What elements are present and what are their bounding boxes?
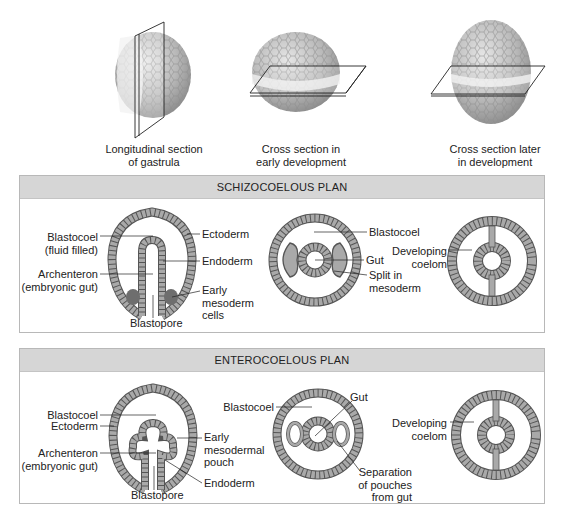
- label-developing-coelom: Developing coelom: [385, 417, 447, 442]
- label-blastocoel-middle: Blastocoel: [369, 226, 420, 239]
- caption-line: in development: [440, 156, 550, 169]
- label-line: Early: [204, 431, 265, 444]
- label-line: (embryonic gut): [10, 460, 98, 473]
- label-line: (embryonic gut): [10, 281, 98, 294]
- label-line: Blastocoel: [20, 231, 98, 244]
- caption-line: early development: [246, 156, 356, 169]
- label-ectoderm: Ectoderm: [20, 420, 98, 433]
- label-gut: Gut: [366, 254, 384, 267]
- caption-line: of gastrula: [92, 156, 216, 169]
- label-line: mesoderm: [202, 297, 254, 310]
- caption-line: Cross section later: [440, 143, 550, 156]
- label-line: coelom: [385, 258, 447, 271]
- label-line: pouch: [204, 456, 265, 469]
- label-line: Archenteron: [10, 447, 98, 460]
- label-archenteron: Archenteron (embryonic gut): [10, 447, 98, 472]
- label-line: mesoderm: [369, 282, 421, 295]
- label-line: coelom: [385, 430, 447, 443]
- panel-title: SCHIZOCOELOUS PLAN: [20, 176, 544, 199]
- label-ectoderm: Ectoderm: [202, 228, 249, 241]
- label-separation-of-pouches: Separation of pouches from gut: [352, 466, 412, 504]
- label-gut: Gut: [350, 391, 368, 404]
- label-line: Split in: [369, 269, 421, 282]
- cross-section-later-illustration: [431, 20, 545, 124]
- label-line: Developing: [385, 245, 447, 258]
- label-line: of pouches: [352, 479, 412, 492]
- caption-cross-later: Cross section later in development: [440, 143, 550, 169]
- label-line: Archenteron: [10, 268, 98, 281]
- label-developing-coelom: Developing coelom: [385, 245, 447, 270]
- label-line: Separation: [352, 466, 412, 479]
- label-early-mesoderm-cells: Early mesoderm cells: [202, 284, 254, 322]
- label-line: Early: [202, 284, 254, 297]
- panel-title: ENTEROCOELOUS PLAN: [20, 349, 544, 372]
- label-endoderm: Endoderm: [202, 255, 253, 268]
- caption-line: Cross section in: [246, 143, 356, 156]
- caption-line: Longitudinal section: [92, 143, 216, 156]
- label-endoderm: Endoderm: [204, 477, 255, 490]
- label-line: (fluid filled): [20, 244, 98, 257]
- cross-section-early-illustration: [250, 32, 366, 112]
- label-split-in-mesoderm: Split in mesoderm: [369, 269, 421, 294]
- caption-longitudinal: Longitudinal section of gastrula: [92, 143, 216, 169]
- label-blastopore: Blastopore: [131, 489, 184, 502]
- label-blastocoel: Blastocoel (fluid filled): [20, 231, 98, 256]
- label-blastocoel-middle: Blastocoel: [218, 401, 274, 414]
- caption-cross-early: Cross section in early development: [246, 143, 356, 169]
- label-early-mesodermal-pouch: Early mesodermal pouch: [204, 431, 265, 469]
- label-line: mesodermal: [204, 444, 265, 457]
- label-line: Developing: [385, 417, 447, 430]
- label-archenteron: Archenteron (embryonic gut): [10, 268, 98, 293]
- label-line: cells: [202, 309, 254, 322]
- gastrula-longitudinal-illustration: [115, 22, 191, 138]
- label-line: from gut: [352, 491, 412, 504]
- label-blastopore: Blastopore: [130, 317, 183, 330]
